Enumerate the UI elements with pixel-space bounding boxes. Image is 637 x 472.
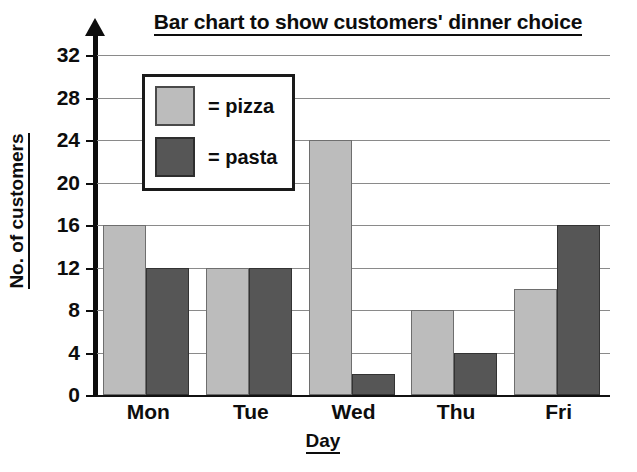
y-axis-tick (86, 395, 95, 397)
x-axis-title-text: Day (306, 430, 341, 454)
bar-tue-pasta (249, 268, 292, 396)
y-tick-label: 24 (34, 129, 80, 150)
y-tick-label: 4 (34, 342, 80, 363)
legend-item-pizza: = pizza (155, 86, 274, 126)
y-axis-tick (86, 310, 95, 312)
bar-thu-pizza (411, 310, 454, 395)
y-tick-label: 32 (34, 44, 80, 65)
bar-fri-pasta (557, 225, 600, 395)
bar-wed-pasta (352, 374, 395, 395)
chart-title: Bar chart to show customers' dinner choi… (118, 10, 618, 34)
y-axis-tick (86, 225, 95, 227)
legend-item-pasta: = pasta (155, 137, 277, 177)
bar-tue-pizza (206, 268, 249, 396)
chart-title-text: Bar chart to show customers' dinner choi… (154, 10, 582, 36)
bar-mon-pizza (103, 225, 146, 395)
x-tick-label-mon: Mon (93, 400, 203, 424)
bar-mon-pasta (146, 268, 189, 396)
x-tick-label-thu: Thu (401, 400, 511, 424)
y-tick-label: 8 (34, 299, 80, 320)
bar-wed-pizza (309, 140, 352, 395)
y-tick-label: 16 (34, 214, 80, 235)
y-tick-label: 12 (34, 257, 80, 278)
bar-fri-pizza (514, 289, 557, 395)
x-tick-label-wed: Wed (299, 400, 409, 424)
y-tick-label: 20 (34, 172, 80, 193)
legend-swatch-pasta (155, 137, 195, 177)
x-tick-label-tue: Tue (196, 400, 306, 424)
legend-swatch-pizza (155, 86, 195, 126)
y-axis-title: No. of customers (6, 116, 28, 306)
gridline (97, 55, 610, 56)
bar-chart-screenshot: Bar chart to show customers' dinner choi… (0, 0, 637, 472)
legend-label-pasta: = pasta (208, 146, 277, 169)
y-axis-tick (86, 98, 95, 100)
y-axis-tick (86, 183, 95, 185)
y-tick-label: 0 (34, 384, 80, 405)
legend-label-pizza: = pizza (208, 95, 274, 118)
y-axis-tick (86, 140, 95, 142)
x-axis-title: Day (268, 430, 378, 452)
gridline (97, 225, 610, 226)
x-axis-baseline (97, 395, 610, 397)
bar-thu-pasta (454, 353, 497, 396)
y-axis-tick (86, 353, 95, 355)
y-tick-label: 28 (34, 87, 80, 108)
legend-box: = pizza = pasta (142, 74, 295, 191)
y-axis-tick (86, 268, 95, 270)
y-axis-tick (86, 55, 95, 57)
y-axis-title-text: No. of customers (6, 133, 30, 288)
x-tick-label-fri: Fri (504, 400, 614, 424)
